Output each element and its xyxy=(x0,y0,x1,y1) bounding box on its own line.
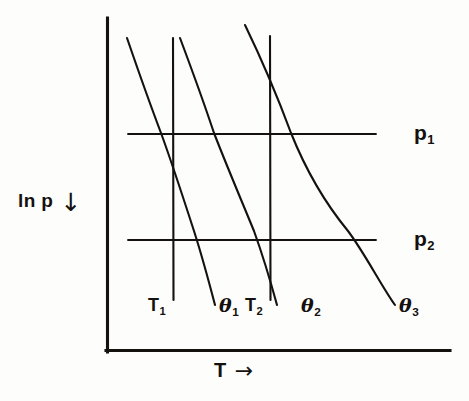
isotherm-label-T1-base: T xyxy=(148,295,159,315)
right-arrow-icon: → xyxy=(235,360,254,382)
adiabat-theta3-curve xyxy=(245,25,395,305)
isotherm-label-T1-subscript: 1 xyxy=(160,305,166,317)
isobar-label-p1-base: p xyxy=(414,121,427,144)
adiabat-curves xyxy=(127,25,395,305)
isobar-label-p2-subscript: 2 xyxy=(427,238,434,253)
adiabat-label-theta3-subscript: 3 xyxy=(412,305,419,318)
isobar-label-p2-base: p xyxy=(414,227,427,250)
isotherm-T2-line xyxy=(270,36,271,300)
adiabat-label-theta2: θ2 xyxy=(301,296,320,315)
isotherm-label-T1: T1 xyxy=(148,296,165,314)
adiabat-theta2-curve xyxy=(180,38,277,305)
isotherm-label-T2-base: T xyxy=(245,295,256,315)
adiabat-label-theta1-base: θ xyxy=(219,294,232,316)
down-arrow-icon: ↓ xyxy=(60,190,81,215)
adiabat-label-theta3: θ3 xyxy=(399,296,418,315)
figure-root: ln p↓ T→ p1 p2 T1 T2 θ1 θ2 θ3 xyxy=(0,0,469,401)
adiabat-label-theta2-subscript: 2 xyxy=(314,305,321,318)
isobar-label-p1-subscript: 1 xyxy=(427,132,434,147)
isobar-label-p2: p2 xyxy=(414,228,434,249)
y-axis-label: ln p↓ xyxy=(18,186,82,211)
isobar-label-p1: p1 xyxy=(414,122,434,143)
adiabat-label-theta3-base: θ xyxy=(399,294,412,316)
adiabat-label-theta1-subscript: 1 xyxy=(232,305,239,318)
adiabat-theta1-curve xyxy=(127,38,215,305)
x-axis-label: T→ xyxy=(214,359,254,381)
isotherm-label-T2-subscript: 2 xyxy=(257,305,263,317)
y-axis-label-text: ln p xyxy=(18,190,53,211)
adiabat-label-theta2-base: θ xyxy=(301,294,314,316)
x-axis-label-text: T xyxy=(214,359,227,381)
isotherm-label-T2: T2 xyxy=(245,296,262,314)
isotherm-lines xyxy=(173,36,271,300)
adiabat-label-theta1: θ1 xyxy=(219,296,238,315)
